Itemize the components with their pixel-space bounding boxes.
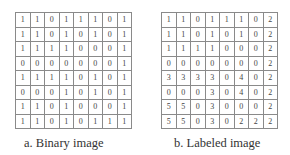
grid-cell: 1 xyxy=(88,114,103,129)
grid-cell: 0 xyxy=(234,100,249,115)
grid-cell: 0 xyxy=(88,56,103,71)
grid-cell: 1 xyxy=(30,71,45,86)
grid-cell: 0 xyxy=(249,13,264,28)
grid-cell: 1 xyxy=(45,42,60,57)
grid-cell: 0 xyxy=(74,85,89,100)
grid-cell: 2 xyxy=(263,27,278,42)
grid-cell: 0 xyxy=(103,100,118,115)
grid-row: 11110001 xyxy=(16,42,132,57)
grid-cell: 1 xyxy=(88,13,103,28)
grid-cell: 0 xyxy=(74,42,89,57)
grid-cell: 0 xyxy=(220,42,235,57)
grid-cell: 0 xyxy=(74,56,89,71)
grid-cell: 2 xyxy=(263,42,278,57)
grid-cell: 0 xyxy=(59,56,74,71)
grid-cell: 3 xyxy=(162,71,177,86)
grid-cell: 1 xyxy=(30,27,45,42)
grid-cell: 1 xyxy=(205,42,220,57)
grid-cell: 1 xyxy=(117,100,132,115)
grid-cell: 0 xyxy=(249,27,264,42)
grid-cell: 0 xyxy=(30,85,45,100)
grid-cell: 0 xyxy=(249,56,264,71)
grid-row: 55030222 xyxy=(162,114,278,129)
grid-cell: 5 xyxy=(162,100,177,115)
grid-cell: 4 xyxy=(234,71,249,86)
grid-cell: 1 xyxy=(220,13,235,28)
grid-cell: 0 xyxy=(191,27,206,42)
grid-cell: 1 xyxy=(30,114,45,129)
grid-cell: 0 xyxy=(162,56,177,71)
grid-cell: 1 xyxy=(88,85,103,100)
grid-cell: 1 xyxy=(117,13,132,28)
grid-cell: 3 xyxy=(176,71,191,86)
grid-cell: 5 xyxy=(176,114,191,129)
grid-cell: 0 xyxy=(74,100,89,115)
grid-cell: 1 xyxy=(59,114,74,129)
grid-cell: 1 xyxy=(30,13,45,28)
grid-cell: 0 xyxy=(234,56,249,71)
grid-cell: 0 xyxy=(45,56,60,71)
grid-cell: 2 xyxy=(263,56,278,71)
grid-row: 11110002 xyxy=(162,42,278,57)
grid-row: 00030402 xyxy=(162,85,278,100)
grid-cell: 1 xyxy=(30,42,45,57)
grid-cell: 3 xyxy=(205,114,220,129)
grid-cell: 0 xyxy=(220,85,235,100)
grid-row: 11010101 xyxy=(16,27,132,42)
grid-cell: 4 xyxy=(234,85,249,100)
grid-cell: 1 xyxy=(59,42,74,57)
grid-cell: 0 xyxy=(220,71,235,86)
grid-row: 11010001 xyxy=(16,100,132,115)
grid-cell: 1 xyxy=(117,56,132,71)
grid-row: 00000002 xyxy=(162,56,278,71)
grid-cell: 1 xyxy=(234,13,249,28)
grid-cell: 1 xyxy=(176,42,191,57)
labeled-image-caption: b. Labeled image xyxy=(174,136,260,151)
grid-cell: 0 xyxy=(30,56,45,71)
grid-cell: 1 xyxy=(205,27,220,42)
grid-cell: 1 xyxy=(74,13,89,28)
grid-cell: 0 xyxy=(191,85,206,100)
grid-cell: 0 xyxy=(45,27,60,42)
grid-cell: 1 xyxy=(117,85,132,100)
grid-cell: 0 xyxy=(74,114,89,129)
grid-cell: 1 xyxy=(191,42,206,57)
grid-cell: 0 xyxy=(103,71,118,86)
grid-cell: 3 xyxy=(205,85,220,100)
grid-row: 55030002 xyxy=(162,100,278,115)
grid-cell: 0 xyxy=(205,56,220,71)
grid-cell: 0 xyxy=(16,56,31,71)
grid-cell: 1 xyxy=(16,13,31,28)
binary-image-grid: 1101110111010101111100010000000111110101… xyxy=(15,12,132,129)
grid-cell: 0 xyxy=(74,71,89,86)
grid-cell: 0 xyxy=(191,13,206,28)
grid-cell: 0 xyxy=(220,114,235,129)
grid-cell: 3 xyxy=(191,71,206,86)
grid-cell: 0 xyxy=(249,71,264,86)
grid-cell: 1 xyxy=(59,71,74,86)
grid-cell: 0 xyxy=(220,27,235,42)
grid-cell: 0 xyxy=(45,114,60,129)
labeled-image-grid: 1101110211010102111100020000000233330402… xyxy=(161,12,278,129)
grid-cell: 1 xyxy=(205,13,220,28)
grid-cell: 1 xyxy=(117,27,132,42)
grid-cell: 0 xyxy=(88,100,103,115)
grid-cell: 5 xyxy=(162,114,177,129)
grid-cell: 2 xyxy=(263,100,278,115)
grid-cell: 1 xyxy=(88,27,103,42)
grid-cell: 5 xyxy=(176,100,191,115)
grid-cell: 0 xyxy=(16,85,31,100)
grid-cell: 1 xyxy=(103,114,118,129)
grid-cell: 1 xyxy=(162,13,177,28)
grid-row: 11110101 xyxy=(16,71,132,86)
grid-cell: 0 xyxy=(103,56,118,71)
grid-cell: 0 xyxy=(103,42,118,57)
grid-cell: 1 xyxy=(88,71,103,86)
grid-cell: 0 xyxy=(249,100,264,115)
grid-cell: 1 xyxy=(176,13,191,28)
grid-cell: 0 xyxy=(162,85,177,100)
grid-cell: 2 xyxy=(263,71,278,86)
grid-cell: 1 xyxy=(16,114,31,129)
grid-cell: 2 xyxy=(249,114,264,129)
grid-row: 00010101 xyxy=(16,85,132,100)
